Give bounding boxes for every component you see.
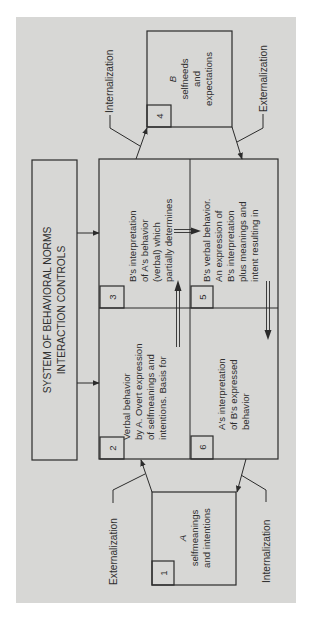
box-6-line3: behavior <box>240 392 251 430</box>
box-5-number: 5 <box>197 294 208 299</box>
box-4-title: B <box>167 75 178 82</box>
box-2-line2: by A. Overt expression <box>133 343 144 440</box>
bottom-left-label: Externalization <box>108 518 119 585</box>
box-2-number: 2 <box>107 445 118 450</box>
system-box-line2: INTERACTION CONTROLS <box>56 246 67 375</box>
box-1-number: 1 <box>158 570 169 575</box>
box-6-line2: of B's expressed <box>228 359 239 430</box>
box-5-line3: B's interpretation <box>225 210 236 282</box>
box-5-line5: intent resulting in <box>249 209 260 282</box>
box-2-line4: intentions. Basis for <box>157 355 168 440</box>
box-3-number: 3 <box>107 294 118 299</box>
top-left-label: Internalization <box>104 50 115 113</box>
system-box-line1: SYSTEM OF BEHAVIORAL NORMS <box>42 227 53 394</box>
box-4-line3: expectations <box>203 52 214 106</box>
box-3-line1: B's interpretation <box>127 210 138 282</box>
bottom-right-label: Internalization <box>261 520 272 583</box>
box-6-number: 6 <box>197 444 208 449</box>
box-2-line1: Verbal behavior <box>121 373 132 440</box>
box-6-line1: A's interpretation <box>216 358 227 430</box>
box-3-line3: (verbal) which <box>151 222 162 282</box>
communication-model-diagram: SYSTEM OF BEHAVIORAL NORMS INTERACTION C… <box>0 0 313 621</box>
box-4-line2: and <box>191 71 202 87</box>
box-5-line4: plus meanings and <box>237 201 248 282</box>
box-4-line1: selfneeds <box>179 58 190 99</box>
box-5-line1: B's verbal behavior. <box>201 199 212 282</box>
box-1-title: A <box>177 535 188 542</box>
box-1-line2: and intentions <box>201 508 212 568</box>
box-1-line1: selfmeanings <box>189 510 200 567</box>
box-5-line2: An expression of <box>213 210 224 282</box>
box-4-number: 4 <box>154 113 165 118</box>
top-right-label: Externalization <box>258 45 269 112</box>
box-3-line2: of A's behavior <box>139 219 150 282</box>
box-2-line3: of selfmeanings and <box>145 354 156 440</box>
box-3-line4: partially determines <box>163 199 174 282</box>
